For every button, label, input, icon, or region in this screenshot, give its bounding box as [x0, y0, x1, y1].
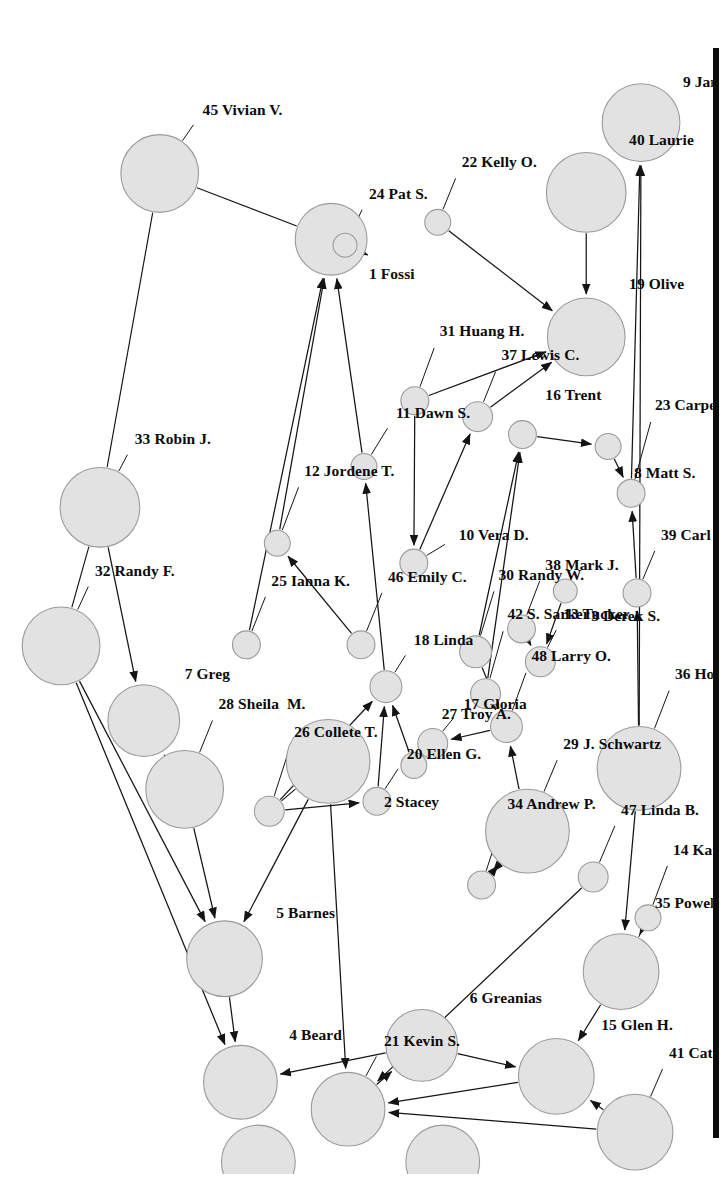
graph-edge: [107, 212, 153, 466]
graph-node[interactable]: [405, 1125, 479, 1174]
graph-node[interactable]: [369, 670, 401, 702]
graph-node[interactable]: [467, 871, 495, 899]
graph-node[interactable]: [232, 630, 260, 658]
graph-edge: [528, 641, 530, 645]
graph-edge: [281, 789, 295, 801]
graph-edge: [632, 511, 636, 578]
label-leader-line: [650, 1069, 662, 1096]
label-leader-line: [483, 371, 495, 401]
graph-node[interactable]: [311, 1072, 385, 1146]
node-label: 36 Holtzclaw: [674, 665, 712, 682]
node-label: 24 Pat S.: [368, 184, 427, 201]
graph-node[interactable]: [347, 630, 375, 658]
node-label: 29 J. Schwartz: [563, 735, 661, 752]
node-label: 5 Barnes: [276, 904, 335, 921]
label-leader-line: [77, 586, 88, 609]
label-leader-line: [599, 825, 614, 861]
node-label: 48 Larry O.: [531, 647, 611, 664]
node-label: 28 Sheila M.: [218, 695, 305, 712]
labels-layer: 1 Fossi2 Stacey3 Derek S.4 Beard5 Barnes…: [94, 73, 712, 1061]
graph-edge: [285, 802, 359, 809]
graph-edge: [388, 1112, 596, 1129]
graph-edge: [614, 459, 623, 477]
graph-node[interactable]: [546, 152, 626, 232]
node-label: 6 Greanias: [469, 989, 541, 1006]
node-label: 18 Linda: [413, 631, 473, 648]
graph-edge: [457, 1053, 515, 1066]
graph-edge: [413, 415, 414, 545]
node-label: 7 Greg: [184, 665, 230, 682]
graph-edge: [537, 436, 591, 444]
graph-edge: [510, 746, 519, 789]
graph-edge: [229, 997, 235, 1042]
node-label: 38 Mark J.: [545, 555, 618, 572]
node-label: 20 Ellen G.: [406, 744, 480, 761]
graph-node[interactable]: [186, 920, 262, 996]
node-label: 37 Lewis C.: [501, 346, 579, 363]
graph-node[interactable]: [145, 750, 223, 828]
node-label: 8 Matt S.: [634, 463, 695, 480]
graph-node[interactable]: [60, 467, 140, 547]
label-leader-line: [543, 760, 556, 791]
node-label: 46 Emily C.: [387, 567, 466, 584]
node-label: 12 Jordene T.: [304, 461, 394, 478]
node-label: 1 Fossi: [368, 264, 414, 281]
node-label: 16 Trent: [545, 386, 602, 403]
figure-page: 1 Fossi2 Stacey3 Derek S.4 Beard5 Barnes…: [0, 0, 727, 1191]
graph-node[interactable]: [623, 579, 651, 607]
graph-edge: [491, 866, 497, 874]
graph-edge: [448, 230, 552, 310]
node-label: 32 Randy F.: [94, 561, 174, 578]
node-label: 2 Stacey: [383, 792, 438, 809]
graph-node[interactable]: [518, 1038, 594, 1114]
graph-node[interactable]: [221, 1125, 295, 1174]
graph-node[interactable]: [254, 796, 284, 826]
graph-edge: [451, 730, 490, 739]
label-leader-line: [426, 544, 444, 555]
nodes-layer: [22, 83, 681, 1173]
label-leader-line: [199, 720, 212, 752]
graph-edge: [487, 452, 519, 678]
label-leader-line: [654, 690, 669, 728]
node-label: 34 Andrew P.: [507, 794, 595, 811]
graph-node[interactable]: [578, 862, 608, 892]
node-label: 42 S. Sarker: [507, 605, 589, 622]
graph-node[interactable]: [597, 1094, 673, 1170]
graph-node[interactable]: [583, 933, 659, 1009]
graph-edge: [493, 863, 499, 871]
graph-edge: [336, 278, 361, 452]
graph-edge: [388, 1082, 518, 1102]
graph-edge: [196, 187, 296, 225]
graph-node[interactable]: [120, 134, 198, 212]
label-leader-line: [118, 454, 127, 470]
graph-node[interactable]: [617, 479, 645, 507]
graph-node[interactable]: [602, 83, 680, 161]
node-label: 40 Laurie: [629, 131, 694, 148]
graph-edge: [590, 1100, 603, 1109]
node-label: 25 Ianna K.: [271, 571, 350, 588]
graph-edge: [624, 811, 634, 930]
label-leader-line: [442, 178, 455, 209]
node-label: 14 Kathy I: [672, 840, 712, 857]
label-leader-line: [365, 1056, 375, 1075]
label-leader-line: [419, 347, 433, 386]
graph-node[interactable]: [547, 298, 625, 376]
node-label: 33 Robin J.: [134, 430, 210, 447]
graph-node[interactable]: [22, 606, 100, 684]
graph-edge: [376, 1071, 391, 1084]
node-label: 47 Linda B.: [621, 800, 699, 817]
graph-node[interactable]: [595, 433, 621, 459]
graph-node[interactable]: [424, 209, 450, 235]
node-label: 23 Carpenter: [654, 396, 712, 413]
graph-node[interactable]: [264, 530, 290, 556]
graph-edge: [378, 706, 384, 786]
graph-node[interactable]: [508, 420, 536, 448]
node-label: 10 Vera D.: [458, 525, 528, 542]
graph-node[interactable]: [203, 1045, 277, 1119]
graph-node[interactable]: [107, 684, 179, 756]
graph-rotator: 1 Fossi2 Stacey3 Derek S.4 Beard5 Barnes…: [15, 18, 713, 1174]
label-leader-line: [642, 550, 654, 578]
graph-edge: [578, 1004, 600, 1040]
label-leader-line: [182, 124, 193, 140]
node-label: 19 Olive: [629, 274, 684, 291]
